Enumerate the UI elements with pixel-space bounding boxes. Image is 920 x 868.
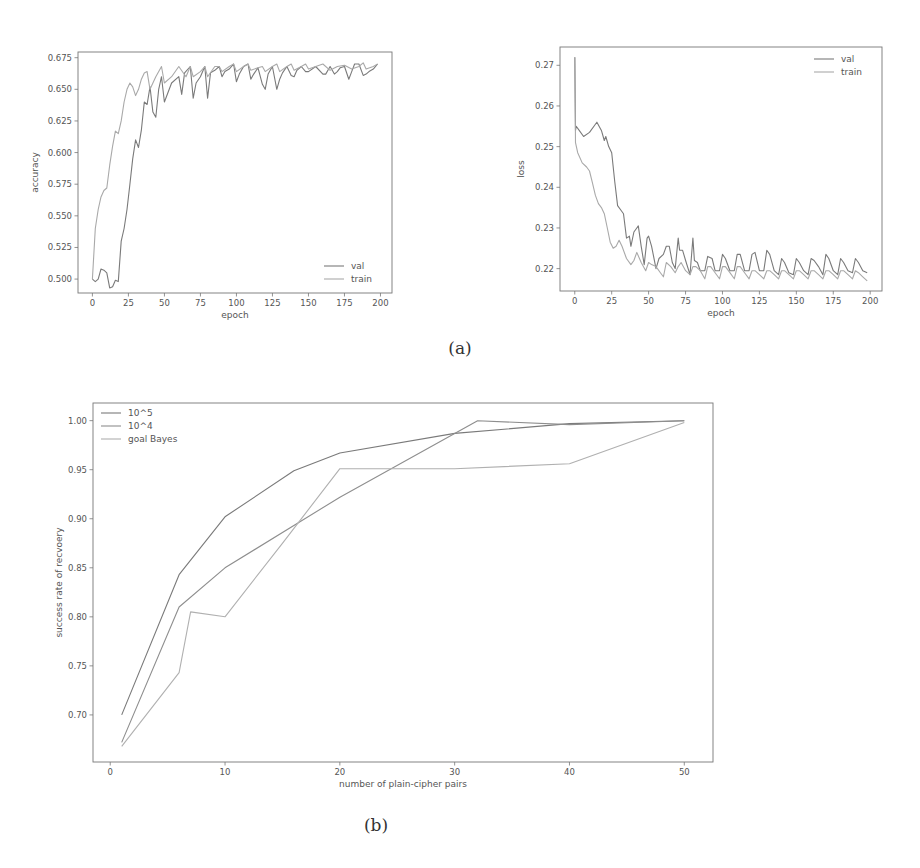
legend-entry: goal Bayes [128,434,178,444]
y-tick-label: 0.26 [535,101,554,111]
x-tick-label: 100 [228,298,244,308]
x-tick-label: 0 [572,296,577,306]
y-tick-label: 0.650 [48,84,72,94]
x-tick-label: 75 [680,296,691,306]
y-tick-label: 0.75 [68,661,87,671]
x-axis-ticks: 0255075100125150175200 [90,293,389,308]
chart-loss: 02550751001251501752000.220.230.240.250.… [516,47,882,318]
figure-canvas: 02550751001251501752000.5000.5250.5500.5… [0,0,920,868]
legend-entry: 10^4 [128,421,153,431]
y-tick-label: 0.23 [535,223,554,233]
x-axis-ticks: 0255075100125150175200 [572,291,878,306]
legend-entry: train [841,67,862,77]
x-tick-label: 40 [564,767,575,777]
y-axis-label: success rate of recvoery [54,527,64,638]
series-line-10-5 [122,421,685,715]
y-tick-label: 0.500 [48,274,72,284]
y-tick-label: 0.85 [68,563,87,573]
x-tick-label: 0 [90,298,95,308]
series-group [92,63,377,288]
y-tick-label: 0.24 [535,182,554,192]
chart-recovery: 010203040500.700.750.800.850.900.951.00n… [54,403,713,789]
y-axis-label: accuracy [30,152,40,193]
x-tick-label: 30 [449,767,460,777]
legend-entry: 10^5 [128,408,153,418]
y-tick-label: 0.22 [535,264,554,274]
x-axis-ticks: 01020304050 [108,762,690,777]
y-tick-label: 0.95 [68,465,87,475]
x-tick-label: 0 [108,767,113,777]
y-tick-label: 0.625 [48,116,72,126]
series-line-train [575,57,867,281]
y-tick-label: 0.525 [48,242,72,252]
series-group [575,57,867,281]
x-tick-label: 175 [336,298,352,308]
x-axis-label: epoch [221,310,248,320]
caption-a: (a) [448,338,471,358]
legend: valtrain [814,54,862,77]
x-tick-label: 50 [643,296,654,306]
series-group [122,421,685,747]
x-tick-label: 175 [825,296,841,306]
legend-entry: val [351,261,364,271]
x-tick-label: 10 [220,767,231,777]
y-tick-label: 0.675 [48,53,72,63]
legend-entry: val [841,54,854,64]
y-tick-label: 0.27 [535,60,554,70]
y-tick-label: 0.90 [68,514,87,524]
plot-frame [560,47,882,291]
x-tick-label: 125 [751,296,767,306]
x-axis-label: epoch [707,308,734,318]
y-axis-ticks: 0.5000.5250.5500.5750.6000.6250.6500.675 [48,53,78,284]
x-tick-label: 200 [862,296,878,306]
x-tick-label: 25 [606,296,617,306]
x-tick-label: 200 [372,298,388,308]
legend-entry: train [351,274,372,284]
x-tick-label: 150 [300,298,316,308]
series-line-val [92,64,377,288]
plot-frame [78,52,392,293]
y-tick-label: 1.00 [68,416,87,426]
y-tick-label: 0.600 [48,148,72,158]
y-axis-ticks: 0.700.750.800.850.900.951.00 [68,416,93,720]
x-tick-label: 50 [679,767,690,777]
x-tick-label: 125 [264,298,280,308]
caption-b: (b) [364,815,388,835]
y-axis-label: loss [516,160,526,178]
y-tick-label: 0.70 [68,710,87,720]
y-tick-label: 0.550 [48,211,72,221]
y-axis-ticks: 0.220.230.240.250.260.27 [535,60,560,273]
y-tick-label: 0.80 [68,612,87,622]
x-tick-label: 25 [123,298,134,308]
y-tick-label: 0.575 [48,179,72,189]
x-tick-label: 150 [788,296,804,306]
x-tick-label: 75 [195,298,206,308]
legend: 10^510^4goal Bayes [101,408,178,444]
series-line-train [92,63,377,279]
chart-accuracy: 02550751001251501752000.5000.5250.5500.5… [30,52,392,320]
plot-frame [93,403,713,762]
y-tick-label: 0.25 [535,142,554,152]
x-tick-label: 100 [714,296,730,306]
legend: valtrain [324,261,372,284]
x-tick-label: 50 [159,298,170,308]
x-axis-label: number of plain-cipher pairs [339,779,467,789]
x-tick-label: 20 [334,767,345,777]
